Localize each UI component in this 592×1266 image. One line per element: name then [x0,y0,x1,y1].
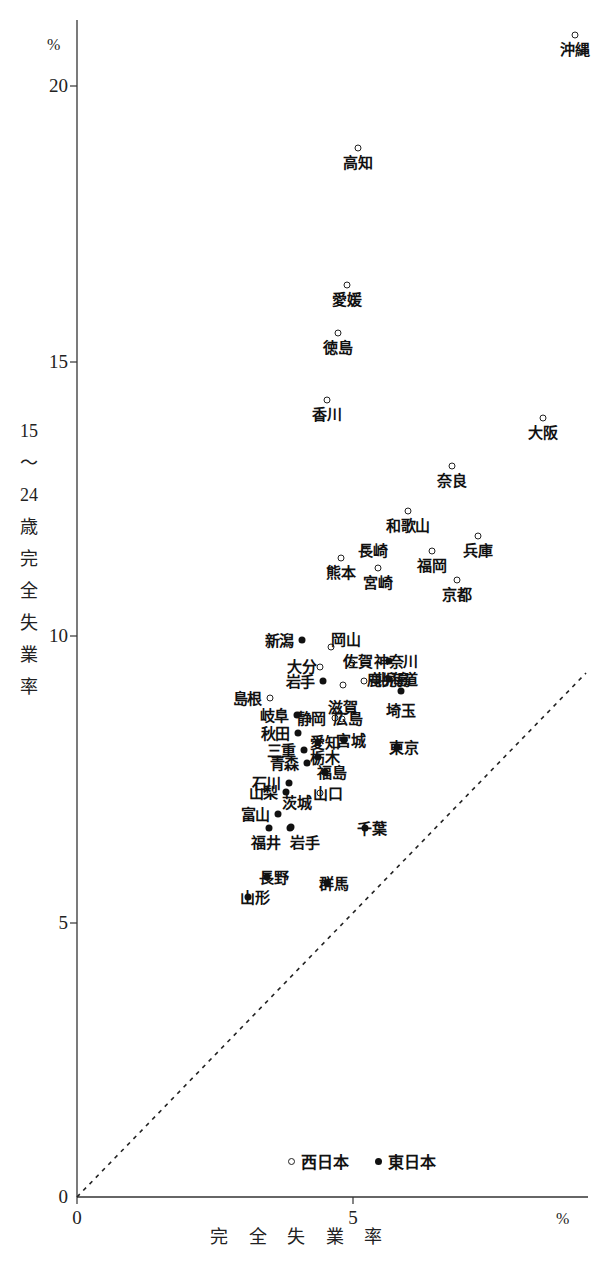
data-point-label-島根: 島根 [233,691,262,706]
data-point-大阪 [540,415,547,422]
data-point-愛媛 [344,282,351,289]
data-point-label-福島: 福島 [317,765,346,780]
y-axis-title-char-2: 24 [14,479,44,511]
y-tick-label-15: 15 [49,351,68,373]
data-point-宮崎 [375,565,382,572]
data-point-label-新潟: 新潟 [265,633,294,648]
data-point-label-岩手: 岩手 [286,674,315,689]
data-point-石川 [286,780,293,787]
data-point-label-宮崎: 宮崎 [363,575,392,590]
data-point-label-千葉: 千葉 [357,821,386,836]
data-point-label-京都: 京都 [442,587,471,602]
y-axis-title-char-6: 失 [14,607,44,639]
data-point-label-広島: 広島 [333,711,362,726]
data-point-label-群馬: 群馬 [319,876,348,891]
data-point-和歌山 [405,508,412,515]
data-point-label-青森: 青森 [270,756,299,771]
data-point-label-山形: 山形 [240,890,269,905]
data-point-兵庫 [475,533,482,540]
data-point-label-和歌山: 和歌山 [386,518,430,533]
data-point-label-長野: 長野 [259,870,288,885]
data-point-label-神奈川: 神奈川 [374,654,418,669]
data-point-label-熊本: 熊本 [326,565,355,580]
legend-label-east: 東日本 [388,1149,436,1173]
y-tick-label-10: 10 [49,625,68,647]
data-point-label-宮城: 宮城 [336,733,365,748]
data-point-label-香川: 香川 [312,407,341,422]
data-point-秋田 [295,730,302,737]
data-point-福井 [266,825,273,832]
data-point-label-愛知: 愛知 [310,735,339,750]
data-point-福岡 [429,548,436,555]
data-point-岐阜 [294,712,301,719]
data-point-三重 [301,747,308,754]
data-point-大分 [317,664,324,671]
legend-label-west: 西日本 [301,1149,349,1173]
data-point-label-北海道: 北海道 [374,672,418,687]
y-axis-title-char-8: 率 [14,671,44,703]
data-point-label-福岡: 福岡 [417,558,446,573]
data-point-label-山梨: 山梨 [249,785,278,800]
legend-open-circle-icon [288,1158,295,1165]
data-point-熊本 [338,555,345,562]
y-axis-title-char-3: 歳 [14,511,44,543]
data-point-label-兵庫: 兵庫 [463,543,492,558]
y-axis-unit: % [47,36,60,54]
data-point-label-茨城: 茨城 [282,795,311,810]
data-point-label-富山: 富山 [241,807,270,822]
legend-filled-circle-icon [375,1158,382,1165]
data-point-label-大分: 大分 [287,659,316,674]
y-axis-title-char-7: 業 [14,639,44,671]
data-point-埼玉 [398,688,405,695]
data-point-label-山口: 山口 [313,786,342,801]
data-point-label-東京: 東京 [389,740,418,755]
data-point-label-高知: 高知 [343,155,372,170]
data-point-label-静岡: 静岡 [297,711,326,726]
data-point-岩手 [320,678,327,685]
data-point-label-徳島: 徳島 [323,340,352,355]
data-point-label-佐賀: 佐賀 [343,654,372,669]
data-point-香川 [324,397,331,404]
data-point-label-埼玉: 埼玉 [386,703,415,718]
data-point-label-福井: 福井 [251,835,280,850]
data-point-青森 [304,760,311,767]
data-point-label-奈良: 奈良 [437,473,466,488]
data-point-label-愛媛: 愛媛 [332,292,361,307]
y-axis-title-char-5: 全 [14,575,44,607]
data-point-label-大阪: 大阪 [528,425,557,440]
y-tick-label-0: 0 [59,1186,69,1208]
data-point-徳島 [335,330,342,337]
data-point-label-岡山: 岡山 [331,632,360,647]
chart-canvas [0,0,592,1266]
data-point-label-長崎: 長崎 [358,543,387,558]
data-point-島根 [267,695,274,702]
y-axis-title: 15 〜 24 歳 完 全 失 業 率 [14,415,44,703]
data-point-滋賀 [340,682,347,689]
data-point-label-沖縄: 沖縄 [560,42,589,57]
x-axis-title: 完 全 失 業 率 [0,1222,592,1248]
data-point-高知 [355,145,362,152]
data-point-岩手 [288,824,295,831]
y-axis-title-char-1: 〜 [14,447,44,479]
y-tick-label-20: 20 [49,75,68,97]
data-point-奈良 [449,463,456,470]
y-axis-title-char-4: 完 [14,543,44,575]
y-tick-label-5: 5 [59,912,69,934]
data-point-label-栃木: 栃木 [310,750,339,765]
data-point-富山 [275,811,282,818]
data-point-新潟 [299,637,306,644]
data-point-label-岐阜: 岐阜 [260,708,289,723]
scatter-chart: 20 15 10 5 0 % 0 5 % 15 〜 24 歳 完 全 失 業 率… [0,0,592,1266]
data-point-沖縄 [572,32,579,39]
data-point-label-秋田: 秋田 [261,726,290,741]
y-axis-title-char-0: 15 [14,415,44,447]
chart-legend: 西日本 東日本 [288,1150,436,1172]
data-point-京都 [454,577,461,584]
data-point-label-岩手: 岩手 [290,835,319,850]
